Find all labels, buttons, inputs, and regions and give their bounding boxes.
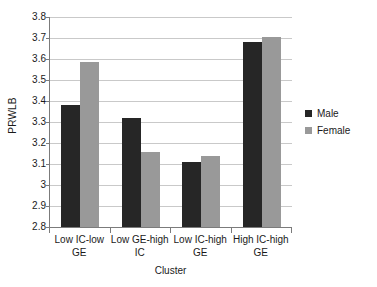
bar-female[interactable]	[262, 37, 281, 227]
chart-legend: MaleFemale	[305, 106, 373, 140]
x-axis-tick-label: Low GE-highIC	[106, 234, 175, 259]
y-axis-tick-mark	[46, 59, 50, 60]
bar-group	[171, 17, 232, 227]
y-axis-tick-label: 3	[20, 180, 46, 190]
x-axis-tick-label-line: GE	[166, 247, 235, 260]
x-axis-tick-label-line: High IC-high	[227, 234, 296, 247]
y-axis-title-text: PRWLB	[7, 97, 18, 133]
bars-layer	[50, 17, 292, 227]
bar-male[interactable]	[122, 118, 141, 227]
y-axis-tick-mark	[46, 143, 50, 144]
bar-male[interactable]	[243, 42, 262, 227]
x-axis-tick-label-line: GE	[45, 247, 114, 260]
bar-female[interactable]	[201, 156, 220, 227]
x-axis-tick-label-line: Low GE-high	[106, 234, 175, 247]
legend-label: Male	[317, 109, 339, 119]
x-axis-title: Cluster	[49, 265, 292, 276]
bar-female[interactable]	[141, 152, 160, 227]
y-axis-tick-label: 3.5	[20, 75, 46, 85]
bar-chart-figure: PRWLB 3.83.73.63.53.43.33.23.132.92.8 Lo…	[0, 0, 377, 287]
y-axis-tick-mark	[46, 38, 50, 39]
y-axis-tick-label: 2.9	[20, 201, 46, 211]
x-axis-tick-mark	[49, 228, 50, 233]
bar-female[interactable]	[80, 62, 99, 227]
y-axis-tick-mark	[46, 122, 50, 123]
legend-entry-male[interactable]: Male	[305, 106, 373, 121]
y-axis-tick-label: 3.1	[20, 159, 46, 169]
y-axis-tick-mark	[46, 80, 50, 81]
x-axis-tick-mark	[170, 228, 171, 233]
bar-group	[111, 17, 172, 227]
x-axis-tick-label-line: Low IC-low	[45, 234, 114, 247]
y-axis-tick-mark	[46, 206, 50, 207]
x-axis-tick-mark	[291, 228, 292, 233]
x-axis-tick-label-line: Low IC-high	[166, 234, 235, 247]
y-axis-tick-label: 3.6	[20, 54, 46, 64]
y-axis-tick-label: 3.2	[20, 138, 46, 148]
x-axis-tick-label: Low IC-lowGE	[45, 234, 114, 259]
bar-group	[232, 17, 293, 227]
y-axis-tick-labels: 3.83.73.63.53.43.33.23.132.92.8	[20, 17, 46, 227]
y-axis-tick-label: 3.4	[20, 96, 46, 106]
y-axis-tick-mark	[46, 101, 50, 102]
y-axis-tick-mark	[46, 185, 50, 186]
y-axis-tick-label: 2.8	[20, 222, 46, 232]
bar-male[interactable]	[61, 105, 80, 227]
y-axis-tick-label: 3.8	[20, 12, 46, 22]
legend-label: Female	[317, 126, 350, 136]
y-axis-tick-label: 3.7	[20, 33, 46, 43]
legend-swatch-icon	[305, 110, 312, 117]
y-axis-tick-mark	[46, 164, 50, 165]
bar-male[interactable]	[182, 162, 201, 227]
x-axis-tick-label: Low IC-highGE	[166, 234, 235, 259]
legend-swatch-icon	[305, 127, 312, 134]
x-axis-tick-label: High IC-highGE	[227, 234, 296, 259]
x-axis-tick-mark	[231, 228, 232, 233]
legend-entry-female[interactable]: Female	[305, 123, 373, 138]
bar-group	[50, 17, 111, 227]
x-axis-tick-label-line: GE	[227, 247, 296, 260]
x-axis-tick-marks	[49, 228, 292, 233]
y-axis-tick-label: 3.3	[20, 117, 46, 127]
plot-area	[49, 17, 292, 228]
y-axis-tick-mark	[46, 17, 50, 18]
x-axis-tick-mark	[110, 228, 111, 233]
x-axis-tick-label-line: IC	[106, 247, 175, 260]
y-axis-title: PRWLB	[3, 0, 21, 230]
